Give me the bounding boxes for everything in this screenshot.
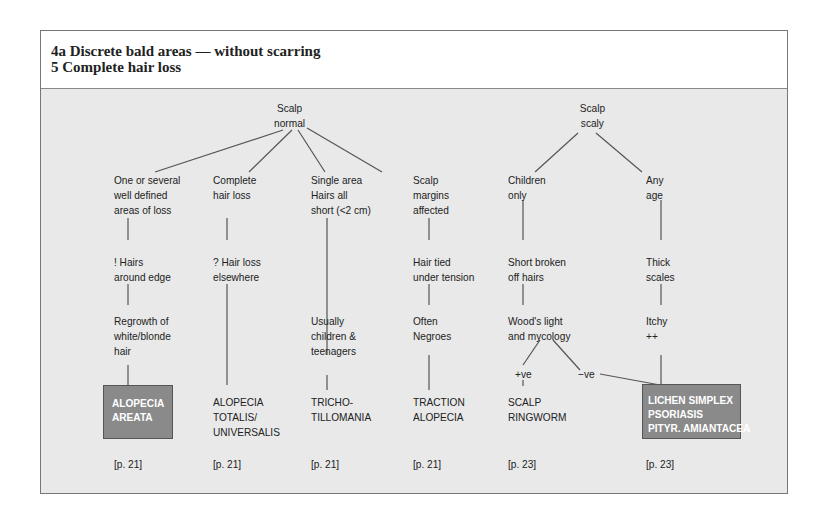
step-line: age <box>646 188 663 203</box>
root-label-line: Scalp <box>580 101 605 116</box>
step-hair-tied-under-tension: Hair tied under tension <box>413 255 474 285</box>
diagnosis-line: ALOPECIA <box>213 395 280 410</box>
step-children-teenagers: Usually children & teenagers <box>311 314 356 359</box>
step-line: Children <box>508 173 546 188</box>
step-any-age: Any age <box>646 173 663 203</box>
page-ref-scalp-ringworm: [p. 23] <box>508 458 536 470</box>
diagnosis-traction-alopecia: TRACTION ALOPECIA <box>413 395 465 425</box>
step-line: Scalp <box>413 173 449 188</box>
step-line: ? Hair loss <box>213 255 261 270</box>
step-line: Often <box>413 314 451 329</box>
step-hairs-around-edge: ! Hairs around edge <box>114 255 171 285</box>
header-title-line-2: 5 Complete hair loss <box>51 59 787 75</box>
diagnosis-line: TOTALIS/ <box>213 410 280 425</box>
diagnosis-alopecia-totalis: ALOPECIA TOTALIS/ UNIVERSALIS <box>213 395 280 440</box>
step-line: off hairs <box>508 270 566 285</box>
step-children-only: Children only <box>508 173 546 203</box>
step-line: Single area <box>311 173 371 188</box>
step-line: elsewhere <box>213 270 261 285</box>
step-scalp-margins-affected: Scalp margins affected <box>413 173 449 218</box>
diagnosis-line: LICHEN SIMPLEX <box>648 393 729 407</box>
diagnosis-line: UNIVERSALIS <box>213 425 280 440</box>
step-line: scales <box>646 270 675 285</box>
step-short-broken-hairs: Short broken off hairs <box>508 255 566 285</box>
step-line: Wood's light <box>508 314 570 329</box>
root-label-line: scaly <box>580 116 605 131</box>
step-well-defined-areas: One or several well defined areas of los… <box>114 173 180 218</box>
step-line: only <box>508 188 546 203</box>
step-regrowth-white-hair: Regrowth of white/blonde hair <box>114 314 171 359</box>
step-line: short (<2 cm) <box>311 203 371 218</box>
step-line: Hairs all <box>311 188 371 203</box>
diagnosis-line: TILLOMANIA <box>311 410 371 425</box>
step-line: hair loss <box>213 188 256 203</box>
diagnosis-line: PITYR. AMIANTACEA <box>648 421 729 435</box>
step-often-negroes: Often Negroes <box>413 314 451 344</box>
step-line: Thick <box>646 255 675 270</box>
step-line: Complete <box>213 173 256 188</box>
page-ref-traction-alopecia: [p. 21] <box>413 458 441 470</box>
step-line: Regrowth of <box>114 314 171 329</box>
header-title-line-1: 4a Discrete bald areas — without scarrin… <box>51 43 787 59</box>
step-line: teenagers <box>311 344 356 359</box>
result-positive: +ve <box>515 367 532 382</box>
step-line: Usually <box>311 314 356 329</box>
step-line: Negroes <box>413 329 451 344</box>
diagnosis-box-alopecia-areata: ALOPECIA AREATA <box>103 385 173 439</box>
diagnosis-line: ALOPECIA <box>112 396 165 410</box>
diagnosis-box-lichen-psoriasis: LICHEN SIMPLEX PSORIASIS PITYR. AMIANTAC… <box>642 384 741 439</box>
diagnosis-line: AREATA <box>112 410 165 424</box>
step-line: Itchy <box>646 314 667 329</box>
step-line: One or several <box>114 173 180 188</box>
root-scalp-scaly: Scalp scaly <box>580 101 605 131</box>
diagram-header: 4a Discrete bald areas — without scarrin… <box>41 31 787 89</box>
step-line: around edge <box>114 270 171 285</box>
step-single-area-short-hairs: Single area Hairs all short (<2 cm) <box>311 173 371 218</box>
page-ref-alopecia-areata: [p. 21] <box>114 458 142 470</box>
result-negative: −ve <box>578 367 595 382</box>
step-line: Short broken <box>508 255 566 270</box>
step-woods-light-mycology: Wood's light and mycology <box>508 314 570 344</box>
step-complete-hair-loss: Complete hair loss <box>213 173 256 203</box>
step-line: ! Hairs <box>114 255 171 270</box>
root-label-line: Scalp <box>274 101 305 116</box>
page-ref-alopecia-totalis: [p. 21] <box>213 458 241 470</box>
diagnosis-scalp-ringworm: SCALP RINGWORM <box>508 395 566 425</box>
diagnosis-line: TRACTION <box>413 395 465 410</box>
step-line: affected <box>413 203 449 218</box>
step-line: and mycology <box>508 329 570 344</box>
diagnosis-line: SCALP <box>508 395 566 410</box>
diagnosis-trichotillomania: TRICHO- TILLOMANIA <box>311 395 371 425</box>
root-label-line: normal <box>274 116 305 131</box>
step-line: ++ <box>646 329 667 344</box>
step-itchy: Itchy ++ <box>646 314 667 344</box>
step-line: areas of loss <box>114 203 180 218</box>
step-line: white/blonde <box>114 329 171 344</box>
step-line: under tension <box>413 270 474 285</box>
step-line: hair <box>114 344 171 359</box>
diagnosis-line: RINGWORM <box>508 410 566 425</box>
step-thick-scales: Thick scales <box>646 255 675 285</box>
step-line: children & <box>311 329 356 344</box>
page-ref-lichen-psoriasis: [p. 23] <box>646 458 674 470</box>
step-line: Any <box>646 173 663 188</box>
root-scalp-normal: Scalp normal <box>274 101 305 131</box>
diagnosis-line: PSORIASIS <box>648 407 729 421</box>
diagnosis-line: TRICHO- <box>311 395 371 410</box>
diagnosis-line: ALOPECIA <box>413 410 465 425</box>
step-line: margins <box>413 188 449 203</box>
step-line: Hair tied <box>413 255 474 270</box>
step-hair-loss-elsewhere: ? Hair loss elsewhere <box>213 255 261 285</box>
step-line: well defined <box>114 188 180 203</box>
page-ref-trichotillomania: [p. 21] <box>311 458 339 470</box>
